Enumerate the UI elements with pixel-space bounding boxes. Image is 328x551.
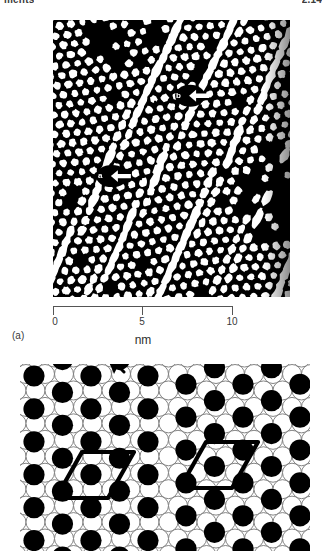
scale-tick-0 — [53, 306, 54, 315]
panel-a-label: (a) — [12, 330, 24, 341]
scale-tick-10 — [232, 306, 233, 315]
scale-tick-label-0: 0 — [52, 316, 58, 327]
scale-tick-label-10: 10 — [226, 316, 237, 327]
running-head-left: ments — [4, 0, 34, 8]
scale-tick-label-5: 5 — [139, 316, 145, 327]
scale-bar-line — [53, 306, 233, 307]
stm-image-panel: a b — [53, 20, 290, 297]
ball-model-canvas — [20, 364, 310, 551]
scale-bar — [53, 306, 233, 315]
running-head-right: 2.14 — [302, 0, 322, 8]
figure-page: ments 2.14 a b 0 5 10 nm (a) — [0, 0, 328, 551]
scale-unit-label: nm — [135, 334, 152, 347]
stm-marker-label-b: b — [176, 92, 181, 100]
scale-tick-5 — [142, 306, 143, 315]
stm-marker-label-a: a — [98, 172, 102, 180]
stm-image-canvas — [53, 20, 290, 297]
ball-model-panel — [20, 364, 310, 551]
